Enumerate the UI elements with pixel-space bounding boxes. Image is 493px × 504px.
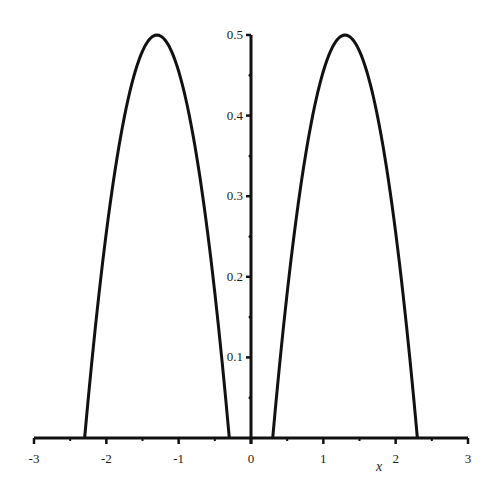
x-tick-label: -3 [29,451,40,466]
y-tick-label: 0.2 [227,269,243,284]
chart-plot: -3-2-10123 0.10.20.30.40.5 x [0,0,493,504]
x-axis-title: x [375,459,383,474]
curve-right-hump [273,35,418,438]
y-minor-tick [249,396,252,399]
curve-left-hump [85,35,230,438]
x-tick-label: 1 [320,451,327,466]
y-tick-label: 0.1 [227,349,243,364]
y-tick-label: 0.3 [227,188,243,203]
y-minor-tick [249,235,252,238]
x-tick-label: -2 [101,451,112,466]
y-tick-label: 0.5 [227,27,243,42]
x-tick-label: 0 [248,451,255,466]
y-tick-label: 0.4 [227,108,244,123]
y-minor-tick [249,154,252,157]
x-tick-label: -1 [173,451,184,466]
y-minor-tick [249,74,252,77]
x-tick-label: 3 [465,451,472,466]
x-tick-label: 2 [392,451,399,466]
y-axis: 0.10.20.30.40.5 [227,27,252,444]
y-minor-tick [249,316,252,319]
